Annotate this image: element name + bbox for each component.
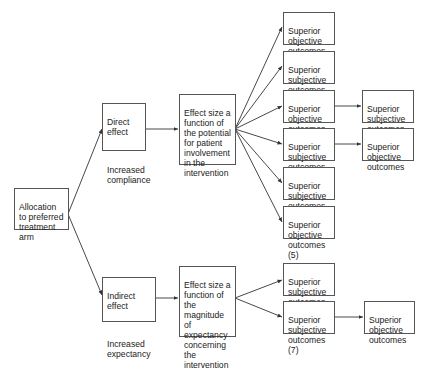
- outcome-box-6: Superior subjective outcomes (6): [283, 263, 335, 296]
- effect-size-potential-box: Effect size a function of the potential …: [179, 94, 236, 165]
- direct-effect-subtitle: Increased compliance: [107, 165, 141, 185]
- indirect-effect-title: Indirect effect: [107, 291, 151, 311]
- effect-size-expectancy-label: Effect size a function of the magnitude …: [184, 280, 231, 370]
- outcome-box-2: Superior subjective outcomes (2): [283, 51, 335, 84]
- outcome-box-1: Superior objective outcomes (1): [283, 12, 335, 45]
- effect-size-expectancy-box: Effect size a function of the magnitude …: [179, 266, 236, 337]
- indirect-effect-subtitle: Increased expectancy: [107, 339, 151, 359]
- effect-size-potential-label: Effect size a function of the potential …: [184, 108, 231, 178]
- indirect-effect-box: Indirect effect Increased expectancy: [102, 277, 156, 322]
- secondary-outcome-box-3: Superior subjective outcomes: [362, 90, 414, 123]
- secondary-outcome-box-4: Superior objective outcomes: [362, 128, 414, 161]
- direct-effect-box: Direct effect Increased compliance: [102, 103, 146, 151]
- outcome-box-5-objective: Superior objective outcomes (5): [283, 206, 335, 239]
- secondary-outcome-label: Superior objective outcomes: [367, 142, 404, 172]
- allocation-box: Allocation to preferred treatment arm: [14, 188, 69, 230]
- direct-effect-title: Direct effect: [107, 117, 141, 137]
- secondary-outcome-label: Superior objective outcomes: [369, 315, 406, 345]
- outcome-box-3: Superior objective outcomes (3): [283, 90, 335, 123]
- outcome-box-5-subjective: Superior subjective outcomes (5): [283, 167, 335, 200]
- outcome-box-4: Superior subjective outcomes (4): [283, 128, 335, 161]
- outcome-box-7: Superior subjective outcomes (7): [283, 301, 335, 334]
- secondary-outcome-box-7: Superior objective outcomes: [364, 301, 415, 334]
